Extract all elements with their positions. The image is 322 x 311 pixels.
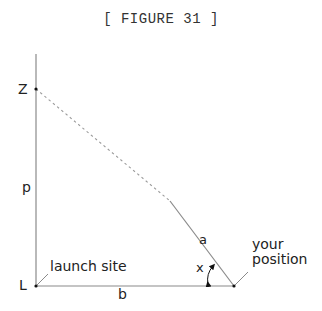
launch-site-leader-line [36,274,48,286]
label-l: L [19,277,27,293]
point-position [232,284,235,287]
dashed-line-z [36,89,170,201]
label-x: x [196,260,204,275]
label-position-line2: position [252,251,307,267]
label-p: p [22,179,31,195]
point-l [34,284,37,287]
label-z: Z [18,81,28,97]
label-position-line1: your [252,236,284,252]
label-launch-site: launch site [50,258,127,274]
label-a: a [199,232,207,247]
point-z [34,87,37,90]
label-b: b [118,286,127,302]
triangle-diagram: Z p L launch site b a x your position [0,0,322,311]
angle-arc-icon [208,266,213,284]
position-leader-line [234,272,248,286]
